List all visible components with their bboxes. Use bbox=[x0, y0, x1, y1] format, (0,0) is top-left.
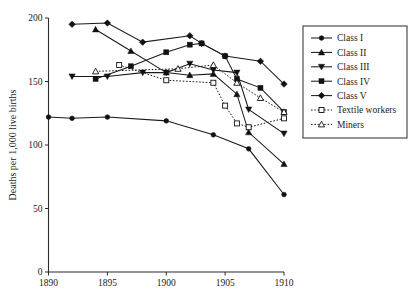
y-axis-title: Deaths per 1,000 live births bbox=[7, 89, 18, 200]
y-tick-label: 50 bbox=[33, 204, 43, 214]
legend: Class IClass IIClass IIIClass IVClass VT… bbox=[303, 26, 407, 138]
marker-square bbox=[164, 78, 169, 83]
legend-label: Class IV bbox=[337, 77, 370, 87]
marker-square bbox=[93, 76, 98, 81]
legend-label: Class V bbox=[337, 91, 367, 101]
axis-lines bbox=[49, 18, 285, 272]
marker-square bbox=[223, 103, 228, 108]
y-tick-label: 100 bbox=[28, 140, 43, 150]
marker-diamond bbox=[187, 33, 194, 40]
marker-square bbox=[164, 50, 169, 55]
x-tick-label: 1910 bbox=[275, 278, 294, 288]
marker-diamond bbox=[69, 21, 76, 28]
marker-square bbox=[258, 85, 263, 90]
marker-circle bbox=[46, 115, 51, 120]
marker-triangle-up bbox=[92, 68, 98, 74]
marker-circle bbox=[211, 132, 216, 137]
infant-mortality-line-chart: 05010015020018901895190019051910Deaths p… bbox=[0, 0, 413, 305]
legend-label: Miners bbox=[337, 120, 364, 130]
x-tick-label: 1900 bbox=[157, 278, 176, 288]
marker-circle bbox=[105, 115, 110, 120]
marker-circle bbox=[70, 116, 75, 121]
marker-circle bbox=[282, 192, 287, 197]
y-tick-label: 0 bbox=[38, 267, 43, 277]
legend-label: Class III bbox=[337, 62, 369, 72]
chart-figure: 05010015020018901895190019051910Deaths p… bbox=[0, 0, 413, 305]
marker-square bbox=[187, 42, 192, 47]
marker-triangle-down bbox=[281, 131, 287, 137]
y-tick-label: 200 bbox=[28, 13, 43, 23]
x-tick-label: 1890 bbox=[39, 278, 58, 288]
x-tick-label: 1905 bbox=[216, 278, 235, 288]
marker-triangle-up bbox=[128, 48, 134, 54]
marker-diamond bbox=[139, 39, 146, 46]
series-path bbox=[72, 23, 284, 84]
marker-triangle-up bbox=[257, 95, 263, 101]
y-tick-label: 150 bbox=[28, 77, 43, 87]
marker-triangle-down bbox=[246, 107, 252, 113]
x-tick-label: 1895 bbox=[98, 278, 117, 288]
marker-square bbox=[234, 121, 239, 126]
marker-square bbox=[319, 108, 324, 113]
marker-square bbox=[211, 80, 216, 85]
marker-square bbox=[117, 62, 122, 67]
legend-label: Class II bbox=[337, 48, 366, 58]
marker-triangle-up bbox=[92, 26, 98, 32]
marker-circle bbox=[246, 146, 251, 151]
marker-square bbox=[319, 79, 324, 84]
marker-circle bbox=[164, 118, 169, 123]
marker-square bbox=[246, 125, 251, 130]
legend-label: Class I bbox=[337, 33, 363, 43]
marker-diamond bbox=[104, 20, 111, 27]
series-path bbox=[96, 29, 284, 164]
marker-square bbox=[282, 116, 287, 121]
marker-triangle-up bbox=[210, 62, 216, 68]
marker-circle bbox=[319, 36, 324, 41]
legend-label: Textile workers bbox=[337, 105, 397, 115]
